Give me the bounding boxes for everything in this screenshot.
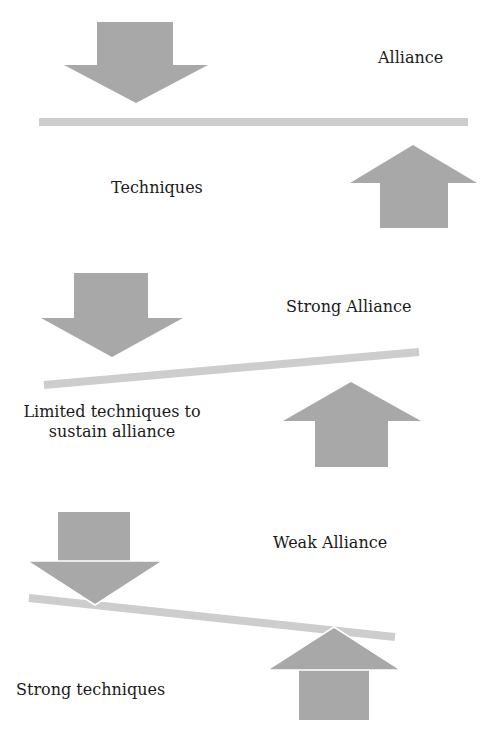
up-arrow-icon: [283, 382, 421, 467]
balance-beam: [44, 352, 419, 385]
label-techniques: Techniques: [111, 178, 203, 198]
label-alliance: Alliance: [378, 48, 443, 68]
down-arrow-icon: [27, 512, 163, 605]
label-limited-techniques-line1: Limited techniques to: [22, 402, 202, 422]
down-arrow-icon: [64, 22, 208, 103]
label-strong-alliance: Strong Alliance: [286, 297, 411, 317]
up-arrow-icon: [267, 627, 401, 720]
label-limited-techniques: Limited techniques to sustain alliance: [22, 402, 202, 442]
label-strong-techniques: Strong techniques: [16, 680, 165, 700]
label-limited-techniques-line2: sustain alliance: [22, 422, 202, 442]
up-arrow-icon: [350, 145, 477, 228]
seesaw-diagram: [0, 0, 495, 738]
label-weak-alliance: Weak Alliance: [273, 533, 387, 553]
down-arrow-icon: [41, 273, 183, 357]
